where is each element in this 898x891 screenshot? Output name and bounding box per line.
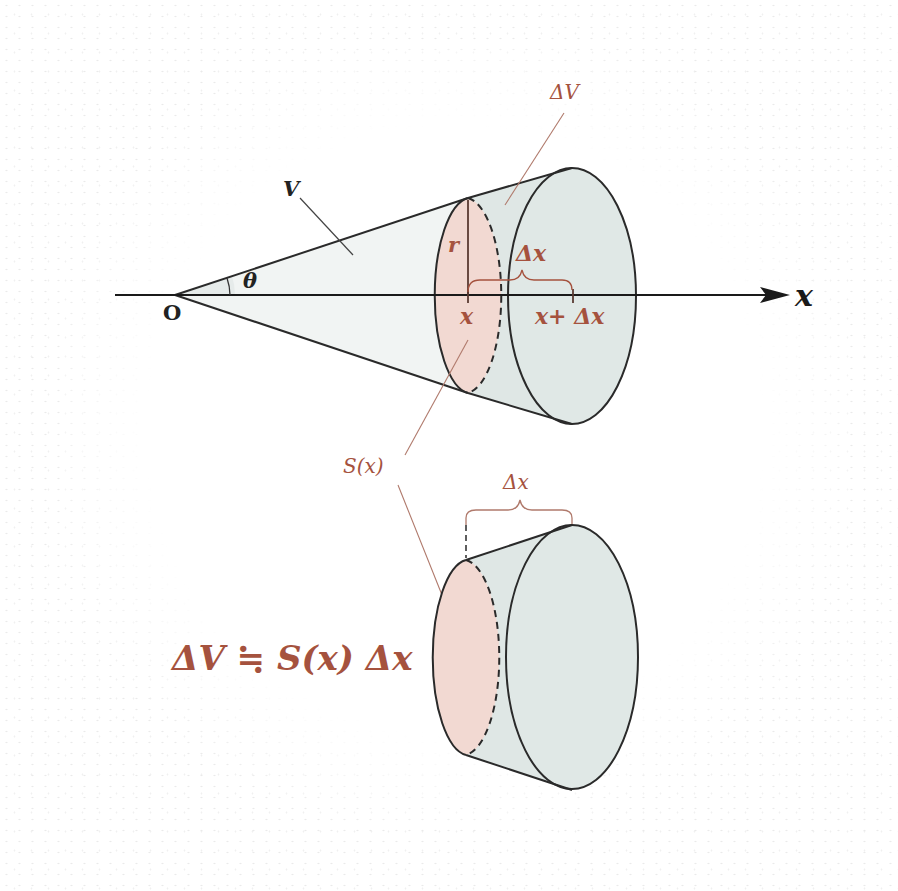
bottom-frustum [433, 525, 638, 790]
volume-approximation-formula: ΔV ≒ S(x) Δx [172, 638, 412, 678]
delta-x-label-top: Δx [516, 240, 546, 266]
angle-label: θ [243, 268, 257, 293]
x-plus-dx-label: x+ Δx [535, 303, 604, 329]
origin-label: O [163, 300, 181, 325]
cross-section-label: S(x) [343, 454, 384, 478]
radius-label: r [448, 232, 459, 257]
cone-diagram [0, 0, 898, 891]
delta-x-brace-bottom [466, 500, 572, 525]
delta-x-label-bottom: Δx [503, 470, 529, 494]
x-tick-label: x [460, 303, 473, 329]
slice-volume-label: ΔV [550, 80, 579, 104]
axis-label: x [795, 278, 813, 313]
volume-label: V [283, 176, 299, 201]
